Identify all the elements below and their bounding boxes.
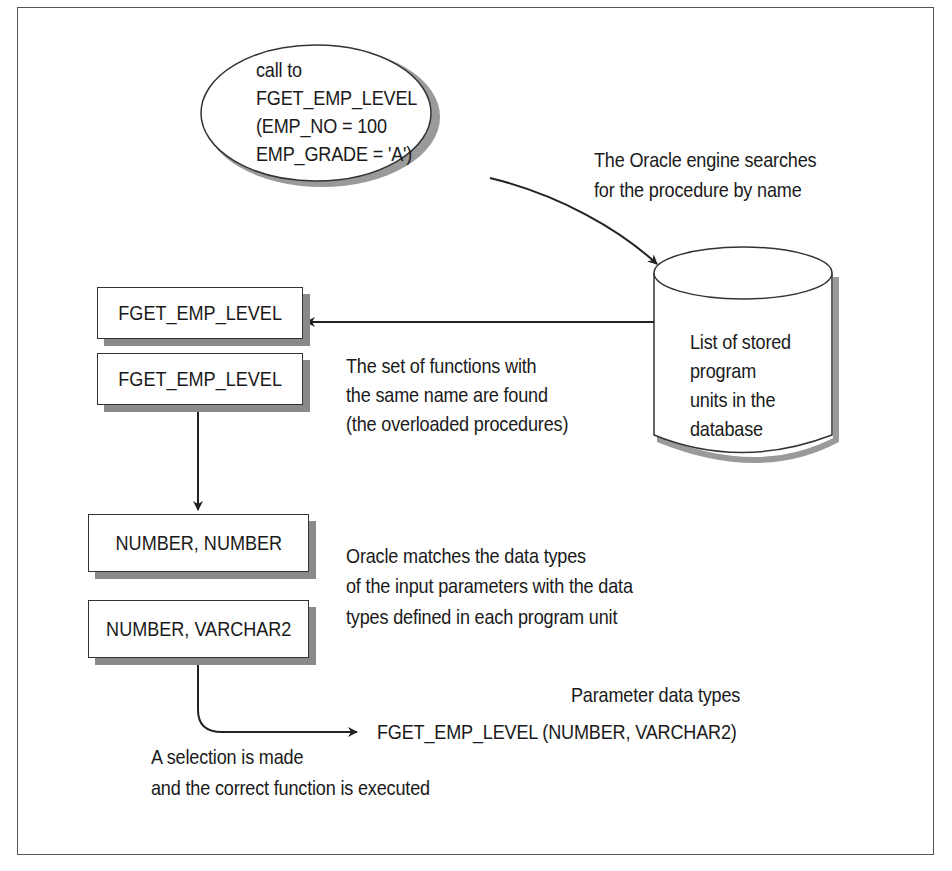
selection-arrow bbox=[198, 658, 357, 732]
function-box-2: FGET_EMP_LEVEL bbox=[97, 353, 303, 405]
function-box-1: FGET_EMP_LEVEL bbox=[97, 287, 303, 339]
call-bubble-line-1: call to bbox=[256, 56, 302, 84]
database-cylinder-top bbox=[654, 247, 832, 299]
type-box-number-varchar2: NUMBER, VARCHAR2 bbox=[88, 600, 309, 658]
found-note-line-1: The set of functions with bbox=[346, 352, 536, 380]
database-line-3: units in the bbox=[690, 386, 775, 414]
database-line-4: database bbox=[690, 415, 763, 443]
function-box-2-label: FGET_EMP_LEVEL bbox=[118, 367, 282, 391]
found-note-line-2: the same name are found bbox=[346, 381, 548, 409]
match-note-line-1: Oracle matches the data types bbox=[346, 542, 586, 570]
type-box-number-number: NUMBER, NUMBER bbox=[88, 514, 309, 572]
parameter-data-types-label: Parameter data types bbox=[571, 681, 740, 709]
database-line-2: program bbox=[690, 357, 756, 385]
call-bubble-line-2: FGET_EMP_LEVEL bbox=[256, 84, 417, 112]
found-note-line-3: (the overloaded procedures) bbox=[346, 410, 568, 438]
database-line-1: List of stored bbox=[690, 328, 791, 356]
match-note-line-2: of the input parameters with the data bbox=[346, 572, 633, 600]
type-box-2-label: NUMBER, VARCHAR2 bbox=[106, 617, 291, 641]
type-box-1-label: NUMBER, NUMBER bbox=[115, 531, 282, 555]
function-box-1-label: FGET_EMP_LEVEL bbox=[118, 301, 282, 325]
result-signature: FGET_EMP_LEVEL (NUMBER, VARCHAR2) bbox=[377, 718, 737, 746]
selection-note-line-2: and the correct function is executed bbox=[151, 774, 430, 802]
search-note-line-1: The Oracle engine searches bbox=[594, 146, 816, 174]
match-note-line-3: types defined in each program unit bbox=[346, 603, 617, 631]
call-bubble-line-3: (EMP_NO = 100 bbox=[256, 112, 387, 140]
search-note-line-2: for the procedure by name bbox=[594, 176, 802, 204]
selection-note-line-1: A selection is made bbox=[151, 743, 303, 771]
call-bubble-line-4: EMP_GRADE = 'A') bbox=[256, 140, 412, 168]
